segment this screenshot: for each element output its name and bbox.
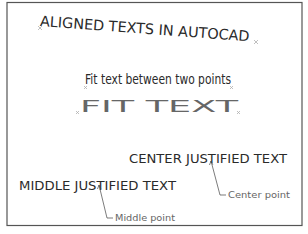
middle-justified-text: MIDDLE JUSTIFIED TEXT bbox=[19, 178, 176, 193]
center-justified-text: CENTER JUSTIFIED TEXT bbox=[129, 151, 287, 166]
cad-drawing: ALIGNED TEXTS IN AUTOCAD Fit text betwee… bbox=[0, 0, 308, 234]
middle-point-label: Middle point bbox=[115, 212, 175, 223]
fit-description-text: Fit text between two points bbox=[85, 71, 231, 87]
fit-text-sample: FIT TEXT bbox=[80, 98, 240, 116]
center-point-label: Center point bbox=[228, 189, 290, 200]
